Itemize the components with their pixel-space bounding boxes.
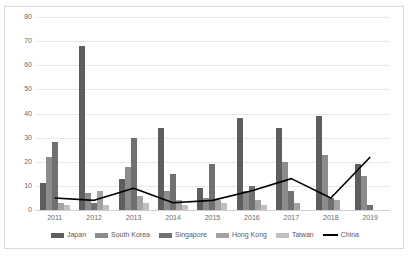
x-tick-label: 2019 [351,212,390,226]
legend-item-south-korea[interactable]: South Korea [95,231,150,239]
x-tick-label: 2015 [193,212,232,226]
legend-label: Singapore [175,231,207,239]
y-tick-label: 40 [24,110,32,118]
y-tick-label: 80 [24,13,32,21]
x-tick-label: 2017 [272,212,311,226]
x-tick-label: 2018 [311,212,350,226]
y-tick-label: 60 [24,61,32,69]
legend-item-china[interactable]: China [323,231,359,239]
y-tick-label: 30 [24,134,32,142]
x-tick-label: 2013 [114,212,153,226]
line-series-layer [35,17,390,210]
x-tick-label: 2012 [74,212,113,226]
legend-item-hong-kong[interactable]: Hong Kong [216,231,267,239]
chart-container: 01020304050607080 2011201220132014201520… [0,0,410,256]
legend-swatch-icon [323,234,338,236]
x-tick-label: 2011 [35,212,74,226]
legend-swatch-icon [95,233,108,238]
x-axis: 201120122013201420152016201720182019 [35,212,390,226]
gridline-0 [35,210,390,211]
y-tick-label: 10 [24,182,32,190]
y-tick-label: 50 [24,85,32,93]
y-tick-label: 70 [24,37,32,45]
legend-item-taiwan[interactable]: Taiwan [276,231,314,239]
plot-area [35,17,390,210]
legend-swatch-icon [159,233,172,238]
legend-label: Taiwan [292,231,314,239]
line-china [55,157,371,203]
x-tick-label: 2016 [232,212,271,226]
legend-item-singapore[interactable]: Singapore [159,231,207,239]
legend-swatch-icon [216,233,229,238]
legend-item-japan[interactable]: Japan [51,231,86,239]
y-axis: 01020304050607080 [8,17,32,210]
y-tick-label: 0 [28,206,32,214]
legend-label: South Korea [111,231,150,239]
legend-swatch-icon [276,233,289,238]
y-tick-label: 20 [24,158,32,166]
chart-legend: JapanSouth KoreaSingaporeHong KongTaiwan… [0,231,410,239]
legend-label: Japan [67,231,86,239]
legend-label: Hong Kong [232,231,267,239]
legend-swatch-icon [51,233,64,238]
x-tick-label: 2014 [153,212,192,226]
legend-label: China [341,231,359,239]
